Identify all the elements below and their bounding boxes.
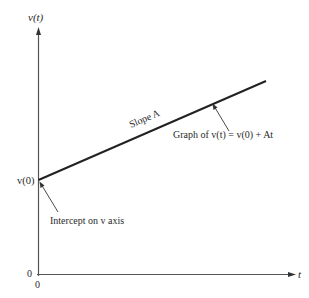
graph-label: Graph of v(t) = v(0) + At (173, 129, 273, 141)
graph-arrow-icon (213, 104, 218, 111)
origin-y-label: 0 (27, 268, 32, 279)
graph-pointer (214, 106, 229, 131)
y-axis-label: v(t) (28, 11, 44, 24)
y-axis-arrow-icon (36, 27, 41, 35)
slope-label: Slope A (127, 107, 161, 130)
origin-x-label: 0 (35, 279, 40, 290)
intercept-pointer (41, 184, 58, 212)
intercept-annotation: Intercept on v axis (50, 215, 124, 226)
x-axis-arrow-icon (288, 272, 296, 277)
intercept-arrow-icon (40, 182, 45, 189)
x-axis-label: t (298, 268, 302, 280)
intercept-label: v(0) (17, 175, 35, 187)
linear-velocity-diagram: v(t) t 0 0 v(0) Slope A Graph of v(t) = … (0, 0, 309, 298)
